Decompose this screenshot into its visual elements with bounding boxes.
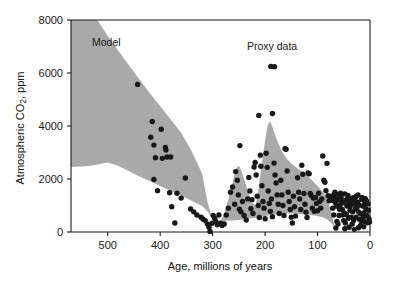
y-axis-title-pre: Atmospheric CO	[14, 103, 26, 184]
y-axis-tick-label: 2000	[39, 173, 63, 185]
proxy-data-point	[302, 201, 307, 206]
x-axis-tick-label: 400	[151, 239, 169, 251]
proxy-data-point	[333, 196, 338, 201]
proxy-data-point	[233, 169, 238, 174]
proxy-data-point	[216, 212, 221, 217]
proxy-data-point	[297, 196, 302, 201]
proxy-data-point	[279, 192, 284, 197]
proxy-data-point	[299, 163, 304, 168]
proxy-data-point	[256, 113, 261, 118]
proxy-data-point	[290, 220, 295, 225]
x-axis-title: Age, millions of years	[168, 260, 273, 272]
proxy-data-point	[160, 156, 165, 161]
y-axis-tick-label: 8000	[39, 14, 63, 26]
proxy-data-point	[306, 171, 311, 176]
proxy-data-point	[169, 204, 174, 209]
proxy-data-point	[291, 194, 296, 199]
x-axis-tick-label: 500	[99, 239, 117, 251]
proxy-data-point	[352, 197, 357, 202]
proxy-data-point	[319, 196, 324, 201]
proxy-data-point	[346, 216, 351, 221]
proxy-data-point	[298, 207, 303, 212]
proxy-data-point	[258, 152, 263, 157]
chart-background	[0, 0, 394, 281]
proxy-data-point	[247, 188, 252, 193]
proxy-data-point	[332, 190, 337, 195]
proxy-data-point	[255, 194, 260, 199]
proxy-data-point	[356, 225, 361, 230]
proxy-data-point	[271, 160, 276, 165]
proxy-data-point	[237, 143, 242, 148]
proxy-data-point	[153, 155, 158, 160]
proxy-data-point	[346, 225, 351, 230]
proxy-data-point	[155, 188, 160, 193]
proxy-data-point	[221, 221, 226, 226]
x-axis-tick-label: 300	[203, 239, 221, 251]
proxy-data-point	[135, 82, 140, 87]
proxy-data-point	[224, 212, 229, 217]
proxy-data-point	[232, 201, 237, 206]
proxy-data-point	[258, 164, 263, 169]
proxy-data-point	[276, 201, 281, 206]
proxy-data-point	[230, 184, 235, 189]
proxy-data-point	[295, 175, 300, 180]
x-axis-tick-label: 200	[256, 239, 274, 251]
proxy-data-point	[331, 212, 336, 217]
proxy-data-point	[256, 203, 261, 208]
proxy-data-point	[301, 191, 306, 196]
proxy-data-point	[320, 153, 325, 158]
proxy-data-point	[257, 215, 262, 220]
x-axis-tick-label: 100	[308, 239, 326, 251]
proxy-data-point	[278, 178, 283, 183]
proxy-data-annotation-label: Proxy data	[247, 40, 297, 52]
x-axis-tick-label: 0	[367, 239, 373, 251]
proxy-data-point	[266, 188, 271, 193]
y-axis-tick-label: 0	[57, 226, 63, 238]
proxy-data-point	[264, 165, 269, 170]
proxy-data-point	[303, 209, 308, 214]
proxy-data-point	[292, 204, 297, 209]
proxy-data-point	[293, 213, 298, 218]
proxy-data-point	[259, 183, 264, 188]
proxy-data-point	[296, 190, 301, 195]
proxy-data-point	[336, 213, 341, 218]
proxy-data-point	[348, 203, 353, 208]
chart-figure: 020004000600080005004003002001000 Model …	[0, 0, 394, 281]
proxy-data-point	[277, 211, 282, 216]
proxy-data-point	[167, 190, 172, 195]
proxy-data-point	[253, 172, 258, 177]
proxy-data-point	[269, 196, 274, 201]
proxy-data-point	[250, 211, 255, 216]
proxy-data-point	[343, 220, 348, 225]
proxy-data-point	[270, 111, 275, 116]
proxy-data-point	[168, 154, 173, 159]
proxy-data-point	[240, 199, 245, 204]
proxy-data-point	[172, 220, 177, 225]
proxy-data-point	[248, 206, 253, 211]
proxy-data-point	[350, 209, 355, 214]
proxy-data-point	[285, 190, 290, 195]
model-annotation-label: Model	[92, 36, 121, 48]
co2-vs-age-scatter-chart: 020004000600080005004003002001000 Model …	[0, 0, 394, 281]
proxy-data-point	[235, 178, 240, 183]
proxy-data-point	[261, 205, 266, 210]
proxy-data-point	[263, 151, 268, 156]
proxy-data-point	[178, 195, 183, 200]
proxy-data-point	[365, 220, 370, 225]
proxy-data-point	[356, 202, 361, 207]
proxy-data-point	[353, 214, 358, 219]
proxy-data-point	[284, 168, 289, 173]
proxy-data-point	[322, 179, 327, 184]
proxy-data-point	[330, 205, 335, 210]
proxy-data-point	[338, 195, 343, 200]
proxy-data-point	[226, 205, 231, 210]
proxy-data-point	[283, 147, 288, 152]
y-axis-tick-label: 4000	[39, 120, 63, 132]
proxy-data-point	[174, 191, 179, 196]
proxy-data-point	[251, 164, 256, 169]
proxy-data-point	[272, 64, 277, 69]
proxy-data-point	[341, 200, 346, 205]
proxy-data-point	[364, 198, 369, 203]
proxy-data-point	[304, 215, 309, 220]
proxy-data-point	[272, 172, 277, 177]
